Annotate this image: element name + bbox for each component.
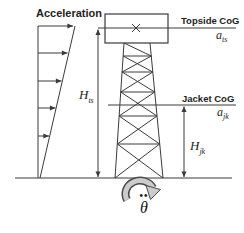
jacket-height-label: Hjk xyxy=(190,139,205,156)
jacket-cog-label: Jacket CoG xyxy=(182,94,234,104)
acceleration-profile xyxy=(38,26,75,178)
acceleration-label: Acceleration xyxy=(36,8,102,19)
symbol-base: H xyxy=(79,87,88,102)
theta-symbol: θ xyxy=(133,200,155,216)
symbol-subscript: ts xyxy=(88,96,93,105)
jacket-lattice xyxy=(115,43,163,178)
topside-cog-label: Topside CoG xyxy=(181,16,239,26)
diagram-canvas xyxy=(0,0,244,233)
jacket-acceleration-symbol: ajk xyxy=(217,106,229,121)
symbol-subscript: jk xyxy=(223,112,229,121)
symbol-subscript: jk xyxy=(199,147,205,156)
angular-acceleration-label: •• θ xyxy=(133,193,155,216)
acceleration-arrows xyxy=(38,26,73,136)
topside-height-label: Hts xyxy=(79,88,94,105)
topside-acceleration-symbol: ats xyxy=(216,29,227,44)
profile-slope-line xyxy=(40,26,75,178)
symbol-base: H xyxy=(190,138,199,153)
offshore-structure-diagram: Acceleration Topside CoG ats Jacket CoG … xyxy=(0,0,244,233)
symbol-subscript: ts xyxy=(222,35,227,44)
